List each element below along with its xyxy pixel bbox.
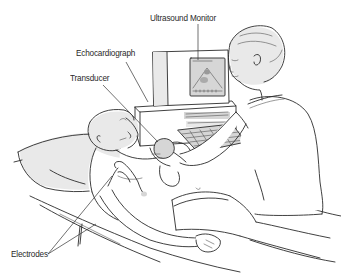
echocardiogram-diagram: Ultrasound Monitor Echocardiograph Trans…	[0, 0, 341, 274]
label-echocardiograph: Echocardiograph	[76, 47, 135, 58]
label-transducer: Transducer	[70, 72, 109, 83]
illustration-drawing	[0, 0, 341, 274]
label-electrodes: Electrodes	[11, 248, 48, 259]
label-ultrasound-monitor: Ultrasound Monitor	[150, 12, 216, 23]
